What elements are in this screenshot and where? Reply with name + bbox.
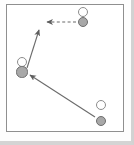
player-token-offense-top-right [78,7,88,17]
player-token-defense-left-middle [16,66,27,77]
player-token-offense-bottom-right [96,100,106,110]
play-diagram-figure [0,0,134,145]
